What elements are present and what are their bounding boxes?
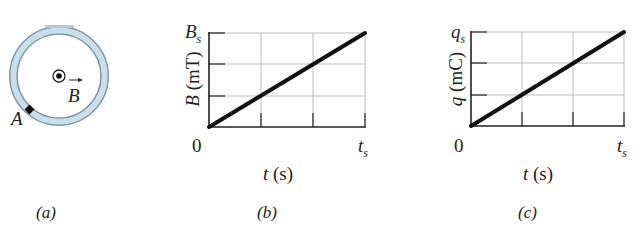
chart-c-x-axis-label: t (s) [523, 164, 553, 183]
chart-c-origin-label: 0 [454, 136, 464, 155]
chart-c-y-axis-label: q (mC) [445, 44, 467, 114]
chart-c-line [471, 32, 624, 126]
chart-c [0, 0, 639, 238]
chart-c-ymax-label: qs [451, 22, 465, 45]
caption-c: (c) [518, 204, 537, 221]
chart-c-xmax-label: ts [617, 136, 627, 159]
